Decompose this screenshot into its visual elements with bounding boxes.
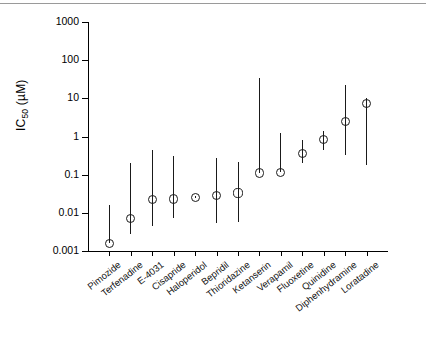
y-axis-title-base: IC (14, 119, 28, 131)
error-bar-whisker (173, 156, 174, 217)
error-bar-whisker (130, 163, 131, 234)
plot-area (88, 22, 388, 251)
data-point-marker (276, 168, 285, 177)
y-axis-tick (82, 60, 88, 61)
y-axis-title: IC50 (µM) (14, 45, 30, 165)
y-axis-tick-label: 0.1 (64, 169, 79, 179)
x-axis-tick (324, 252, 325, 256)
y-axis-tick (82, 137, 88, 138)
data-point-marker (233, 188, 242, 197)
data-point-marker (105, 239, 114, 248)
data-point-marker (255, 168, 264, 177)
y-axis-tick (82, 175, 88, 176)
x-axis-tick (195, 252, 196, 256)
y-axis-tick-label: 1000 (56, 16, 79, 26)
error-bar-whisker (280, 133, 281, 172)
data-series-ic50 (88, 22, 388, 251)
x-axis-tick (259, 252, 260, 256)
data-point-marker (298, 149, 307, 158)
data-point-marker (126, 214, 135, 223)
data-point-marker (191, 193, 200, 202)
x-axis-tick (302, 252, 303, 256)
y-axis-tick (82, 22, 88, 23)
x-axis-tick (281, 252, 282, 256)
error-bar-whisker (109, 205, 110, 243)
x-axis-tick (131, 252, 132, 256)
y-axis-title-unit: (µM) (14, 79, 28, 108)
error-bar-whisker (366, 98, 367, 165)
y-axis-tick-labels: 10001001010.10.010.001 (0, 0, 79, 338)
x-axis-tick (238, 252, 239, 256)
y-axis-tick (82, 251, 88, 252)
y-axis-tick (82, 98, 88, 99)
y-axis-tick-label: 100 (61, 54, 79, 64)
error-bar-whisker (259, 78, 260, 174)
x-axis-tick (152, 252, 153, 256)
data-point-marker (212, 191, 221, 200)
x-axis-tick (217, 252, 218, 256)
x-axis-tick (109, 252, 110, 256)
y-axis-tick (82, 213, 88, 214)
y-axis-tick-label: 0.01 (59, 207, 79, 217)
data-point-marker (319, 135, 328, 144)
error-bar-whisker (216, 158, 217, 223)
data-point-marker (169, 194, 178, 203)
y-axis-tick-label: 10 (67, 92, 79, 102)
x-axis-tick (345, 252, 346, 256)
y-axis-tick-label: 0.001 (53, 245, 79, 255)
data-point-marker (341, 117, 350, 126)
data-point-marker (362, 99, 371, 108)
x-axis-tick (174, 252, 175, 256)
figure-chart-ic50: 10001001010.10.010.001 IC50 (µM) Pimozid… (0, 0, 426, 338)
error-bar-whisker (152, 150, 153, 226)
x-axis-category-labels: PimozideTerfenadineE-4031CisaprideHalope… (88, 251, 418, 338)
y-axis-tick-label: 1 (73, 131, 79, 141)
data-point-marker (148, 195, 157, 204)
y-axis-title-subscript: 50 (20, 109, 30, 119)
x-axis-tick (367, 252, 368, 256)
